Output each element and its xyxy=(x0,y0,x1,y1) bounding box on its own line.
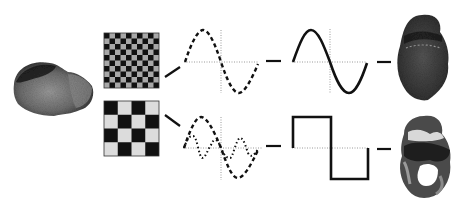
arrow-icon xyxy=(165,67,180,126)
low-frequency-grating xyxy=(104,101,159,156)
low-frequency-input-wave xyxy=(183,117,262,180)
low-frequency-output-square xyxy=(292,117,369,179)
high-frequency-filtered-object xyxy=(397,15,448,101)
diagram-canvas xyxy=(0,0,467,209)
low-frequency-filtered-object xyxy=(400,116,451,198)
high-frequency-input-wave xyxy=(184,30,259,93)
arrow-icon xyxy=(377,62,391,149)
arrow-icon xyxy=(266,61,281,146)
high-frequency-output-sine xyxy=(292,29,367,94)
frequency-decomposition-diagram: Fourier / spatial-frequency decompositio… xyxy=(0,0,467,209)
high-frequency-grating xyxy=(104,33,159,88)
source-brain-image xyxy=(14,62,94,116)
